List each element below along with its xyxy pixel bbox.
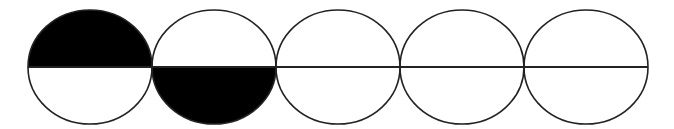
diagram-svg <box>0 0 674 129</box>
circle-row-diagram <box>0 0 674 129</box>
shaded-half-top <box>28 10 152 67</box>
shaded-half-bottom <box>152 67 276 124</box>
